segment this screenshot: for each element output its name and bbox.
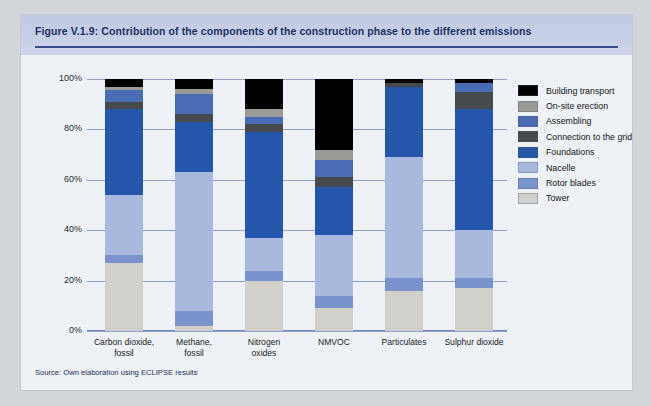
legend-item-label: Assembling	[546, 116, 591, 126]
bar-nitrogen-oxides[interactable]	[245, 79, 283, 331]
bar-segment-foundations[interactable]	[385, 87, 423, 158]
legend-swatch-nacelle-icon	[518, 162, 538, 173]
y-axis-tick-label: 0%	[22, 325, 82, 335]
legend-item-label: Rotor blades	[546, 178, 596, 188]
bar-segment-building-transport[interactable]	[385, 79, 423, 83]
legend-swatch-connection-to-grid-icon	[518, 131, 538, 142]
bar-segment-on-site-erection[interactable]	[105, 87, 143, 91]
legend-item-label: Tower	[546, 193, 569, 203]
bar-segment-tower[interactable]	[175, 326, 213, 331]
y-axis-tick-label: 20%	[22, 275, 82, 285]
legend-item-assembling[interactable]: Assembling	[518, 114, 651, 129]
bar-segment-connection-to-the-grid[interactable]	[105, 102, 143, 110]
gridline-80	[87, 129, 507, 130]
bar-segment-building-transport[interactable]	[455, 79, 493, 83]
bar-segment-building-transport[interactable]	[315, 79, 353, 150]
x-axis-label-line: Sulphur dioxide	[430, 337, 518, 348]
bar-segment-foundations[interactable]	[175, 122, 213, 172]
legend-swatch-tower-icon	[518, 193, 538, 204]
bar-segment-nacelle[interactable]	[455, 230, 493, 278]
chart-body: 0%20%40%60%80%100%Carbon dioxide,fossilM…	[21, 55, 632, 390]
bar-segment-foundations[interactable]	[105, 109, 143, 195]
bar-segment-tower[interactable]	[385, 291, 423, 331]
chart-legend: Building transportOn-site erectionAssemb…	[518, 83, 651, 206]
bar-particulates[interactable]	[385, 79, 423, 331]
bar-segment-rotor-blades[interactable]	[385, 278, 423, 291]
title-underline-rule	[35, 46, 618, 48]
legend-swatch-foundations-icon	[518, 147, 538, 158]
bar-methane-fossil[interactable]	[175, 79, 213, 331]
figure-title-band: Figure V.1.9: Contribution of the compon…	[21, 15, 632, 55]
bar-segment-building-transport[interactable]	[245, 79, 283, 109]
x-axis-category-label: Sulphur dioxide	[430, 337, 518, 348]
bar-segment-nacelle[interactable]	[315, 235, 353, 295]
legend-item-label: On-site erection	[546, 101, 608, 111]
legend-item-building-transport[interactable]: Building transport	[518, 83, 651, 98]
bar-segment-rotor-blades[interactable]	[455, 278, 493, 288]
bar-carbon-dioxide-fossil[interactable]	[105, 79, 143, 331]
y-axis-tick-label: 80%	[22, 123, 82, 133]
legend-swatch-onsite-erection-icon	[518, 101, 538, 112]
bar-segment-tower[interactable]	[315, 308, 353, 331]
bar-segment-assembling[interactable]	[315, 160, 353, 178]
legend-item-rotor-blades[interactable]: Rotor blades	[518, 175, 651, 190]
bar-segment-tower[interactable]	[455, 288, 493, 331]
bar-segment-assembling[interactable]	[455, 83, 493, 92]
gridline-100	[87, 79, 507, 80]
plot-area: 0%20%40%60%80%100%Carbon dioxide,fossilM…	[87, 79, 507, 331]
bar-segment-tower[interactable]	[105, 263, 143, 331]
legend-item-label: Foundations	[546, 147, 594, 157]
y-axis-tick-label: 40%	[22, 224, 82, 234]
bar-segment-rotor-blades[interactable]	[315, 296, 353, 309]
legend-swatch-building-transport-icon	[518, 85, 538, 96]
bar-segment-foundations[interactable]	[315, 187, 353, 235]
y-axis-tick-label: 60%	[22, 174, 82, 184]
legend-item-nacelle[interactable]: Nacelle	[518, 160, 651, 175]
bar-segment-connection-to-the-grid[interactable]	[385, 83, 423, 87]
bar-segment-nacelle[interactable]	[245, 238, 283, 271]
y-axis-tick-label: 100%	[22, 73, 82, 83]
page-background: Figure V.1.9: Contribution of the compon…	[0, 0, 651, 406]
bar-segment-connection-to-the-grid[interactable]	[315, 177, 353, 187]
bar-segment-assembling[interactable]	[245, 117, 283, 125]
gridline-0	[87, 331, 507, 332]
legend-swatch-rotor-blades-icon	[518, 178, 538, 189]
legend-item-connection-to-grid[interactable]: Connection to the grid	[518, 129, 651, 144]
bar-segment-nacelle[interactable]	[385, 157, 423, 278]
legend-item-tower[interactable]: Tower	[518, 191, 651, 206]
bar-segment-connection-to-the-grid[interactable]	[175, 114, 213, 122]
bar-segment-nacelle[interactable]	[105, 195, 143, 255]
bar-segment-building-transport[interactable]	[105, 79, 143, 87]
bar-segment-building-transport[interactable]	[175, 79, 213, 89]
x-axis-label-line: oxides	[220, 348, 308, 359]
legend-item-foundations[interactable]: Foundations	[518, 145, 651, 160]
bar-segment-assembling[interactable]	[175, 94, 213, 114]
legend-item-label: Building transport	[546, 86, 614, 96]
bar-segment-connection-to-the-grid[interactable]	[245, 124, 283, 132]
gridline-20	[87, 281, 507, 282]
figure-frame: Figure V.1.9: Contribution of the compon…	[20, 14, 633, 391]
legend-item-onsite-erection[interactable]: On-site erection	[518, 98, 651, 113]
gridline-60	[87, 180, 507, 181]
bar-sulphur-dioxide[interactable]	[455, 79, 493, 331]
bar-segment-connection-to-the-grid[interactable]	[455, 92, 493, 110]
legend-swatch-assembling-icon	[518, 116, 538, 127]
bar-segment-nacelle[interactable]	[175, 172, 213, 311]
source-note: Source: Own elaboration using ECLIPSE re…	[35, 368, 198, 377]
bar-nmvoc[interactable]	[315, 79, 353, 331]
bar-segment-foundations[interactable]	[455, 109, 493, 230]
figure-title: Figure V.1.9: Contribution of the compon…	[35, 25, 531, 37]
bar-segment-on-site-erection[interactable]	[315, 150, 353, 160]
legend-item-label: Nacelle	[546, 163, 575, 173]
bar-segment-on-site-erection[interactable]	[175, 89, 213, 94]
gridline-40	[87, 230, 507, 231]
bar-segment-foundations[interactable]	[245, 132, 283, 238]
bar-segment-rotor-blades[interactable]	[245, 271, 283, 281]
bar-segment-assembling[interactable]	[105, 90, 143, 101]
bar-segment-tower[interactable]	[245, 281, 283, 331]
bar-segment-on-site-erection[interactable]	[245, 109, 283, 117]
bar-segment-rotor-blades[interactable]	[105, 255, 143, 263]
legend-item-label: Connection to the grid	[546, 132, 632, 142]
bar-segment-rotor-blades[interactable]	[175, 311, 213, 326]
